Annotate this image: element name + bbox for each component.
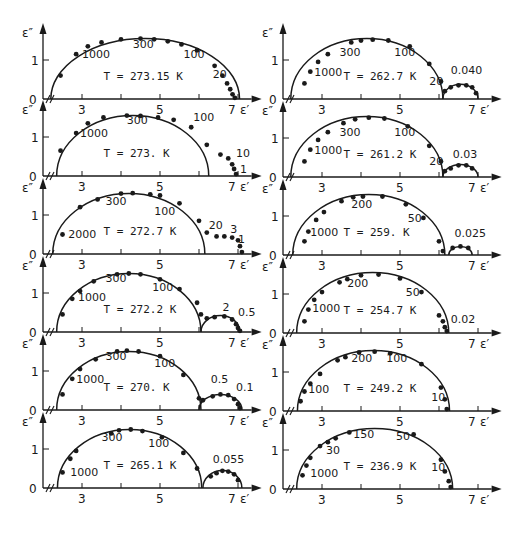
panel-left-1: 357ε′01ε″100030010020T = 273.15 K — [22, 23, 262, 117]
y-tick-label: 0 — [29, 482, 37, 496]
data-point — [148, 192, 153, 197]
panel-right-6: 357ε′01ε″1000301505010T = 236.9 K — [262, 413, 502, 507]
x-tick-label: 3 — [78, 336, 86, 350]
x-axis-label: ε′ — [480, 337, 489, 351]
data-point — [195, 466, 200, 471]
data-point — [199, 312, 204, 317]
fit-arc — [297, 351, 449, 411]
data-point — [302, 81, 307, 86]
data-point — [238, 406, 243, 411]
data-point — [238, 328, 243, 333]
y-tick-label: 1 — [271, 288, 279, 302]
data-point — [136, 349, 141, 354]
data-point — [60, 232, 65, 237]
data-point — [156, 115, 161, 120]
data-point — [85, 121, 90, 126]
x-tick-label: 3 — [78, 103, 86, 117]
x-tick-label: 7 — [468, 415, 476, 429]
data-point — [464, 83, 469, 88]
x-tick-label: 3 — [78, 492, 86, 506]
data-point — [448, 85, 453, 90]
frequency-label: 1 — [238, 233, 245, 246]
x-tick-label: 3 — [318, 493, 326, 507]
temperature-label: T = 270. K — [103, 381, 170, 394]
frequency-label: 100 — [152, 281, 173, 294]
y-tick-label: 1 — [31, 131, 39, 145]
x-tick-label: 5 — [156, 336, 164, 350]
data-point — [302, 389, 307, 394]
data-point — [306, 307, 311, 312]
data-point — [74, 52, 79, 57]
x-tick-label: 7 — [228, 414, 236, 428]
x-tick-label: 5 — [396, 493, 404, 507]
frequency-label: 300 — [127, 114, 148, 127]
frequency-label: 10 — [236, 147, 250, 160]
x-tick-label: 7 — [468, 337, 476, 351]
y-tick-label: 1 — [271, 54, 279, 68]
frequency-label: 300 — [133, 38, 154, 51]
data-point — [171, 117, 176, 122]
frequency-label: 2000 — [68, 228, 96, 241]
data-point — [99, 40, 104, 45]
data-point — [181, 373, 186, 378]
panel-right-4: 357ε′01ε″1000200500.02T = 254.7 K — [262, 257, 502, 351]
data-point — [93, 357, 98, 362]
temperature-label: T = 254.7 K — [343, 304, 416, 317]
data-point — [308, 147, 313, 152]
data-point — [68, 456, 73, 461]
y-tick-label: 1 — [271, 444, 279, 458]
data-point — [456, 83, 461, 88]
data-point — [240, 250, 245, 255]
y-tick-label: 1 — [31, 443, 39, 457]
y-tick-label: 1 — [31, 209, 39, 223]
data-point — [302, 319, 307, 324]
x-axis-arrow-icon — [492, 408, 502, 415]
data-point — [372, 349, 377, 354]
frequency-label: 300 — [340, 126, 361, 139]
frequency-label: 10 — [431, 461, 445, 474]
data-point — [197, 218, 202, 223]
frequency-label: 1000 — [76, 373, 104, 386]
data-point — [208, 474, 213, 479]
y-axis-arrow-icon — [280, 101, 287, 112]
data-point — [220, 468, 225, 473]
data-point — [341, 121, 346, 126]
data-point — [470, 85, 475, 90]
x-tick-label: 3 — [78, 414, 86, 428]
data-point — [212, 315, 217, 320]
y-axis-arrow-icon — [280, 257, 287, 268]
frequency-label: 1000 — [314, 144, 342, 157]
data-point — [119, 37, 124, 42]
data-point — [222, 314, 227, 319]
data-point — [204, 142, 209, 147]
temperature-label: T = 259. K — [343, 226, 410, 239]
data-point — [419, 362, 424, 367]
data-point — [60, 470, 65, 475]
y-axis-label: ε″ — [22, 181, 33, 195]
panel-left-3: 357ε′01ε″20003001002031T = 272.7 K — [22, 178, 262, 272]
frequency-label: 100 — [154, 205, 175, 218]
x-tick-label: 5 — [396, 337, 404, 351]
frequency-label: 50 — [408, 212, 422, 225]
data-point — [165, 39, 170, 44]
x-tick-label: 5 — [156, 103, 164, 117]
frequency-label: 30 — [326, 444, 340, 457]
x-tick-label: 7 — [468, 103, 476, 117]
x-tick-label: 7 — [228, 258, 236, 272]
frequency-label: 300 — [340, 46, 361, 59]
data-point — [74, 131, 79, 136]
frequency-label: 100 — [394, 126, 415, 139]
x-axis-arrow-icon — [252, 251, 262, 258]
frequency-label: 1000 — [310, 467, 338, 480]
data-point — [201, 398, 206, 403]
data-point — [353, 117, 358, 122]
data-point — [177, 201, 182, 206]
frequency-label: 100 — [148, 437, 169, 450]
y-axis-label: ε″ — [262, 260, 273, 274]
y-axis-arrow-icon — [40, 23, 47, 34]
x-axis-label: ε′ — [480, 415, 489, 429]
frequency-label: 20 — [429, 155, 443, 168]
data-point — [58, 73, 63, 78]
frequency-label: 300 — [102, 431, 123, 444]
frequency-label: 200 — [351, 198, 372, 211]
